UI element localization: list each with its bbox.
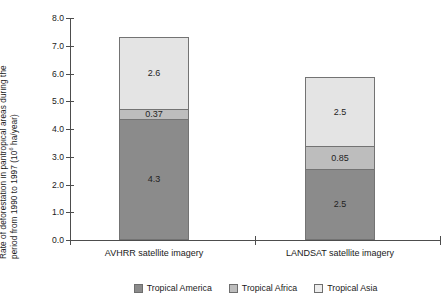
bar-landsat: 2.5 0.85 2.5 xyxy=(305,77,375,240)
y-tick-7 xyxy=(66,46,74,47)
legend-item-tropical-america: Tropical America xyxy=(134,284,212,293)
legend-item-tropical-africa: Tropical Africa xyxy=(229,284,297,293)
x-tick-middle xyxy=(255,236,256,245)
bar-landsat-label-tropical-america: 2.5 xyxy=(334,200,347,209)
y-tick-label-3: 3.0 xyxy=(38,153,64,162)
y-tick-label-4: 4.0 xyxy=(38,125,64,134)
y-axis-title: Rate of deforestation in pantropical are… xyxy=(0,0,36,248)
legend-swatch-icon-tropical-america xyxy=(134,284,143,293)
y-tick-1 xyxy=(66,212,74,213)
y-tick-label-2: 2.0 xyxy=(38,181,64,190)
legend-label-tropical-africa: Tropical Africa xyxy=(242,284,297,293)
bar-landsat-label-tropical-africa: 0.85 xyxy=(331,154,349,163)
y-tick-3 xyxy=(66,157,74,158)
bar-avhrr-segment-tropical-asia: 2.6 xyxy=(119,37,189,110)
bar-landsat-label-tropical-asia: 2.5 xyxy=(334,108,347,117)
x-axis-category-label-avhrr: AVHRR satellite imagery xyxy=(64,249,244,258)
bar-avhrr-label-tropical-africa: 0.37 xyxy=(145,110,163,119)
bar-landsat-segment-tropical-america: 2.5 xyxy=(305,169,375,240)
x-tick-left xyxy=(70,236,71,245)
legend-label-tropical-america: Tropical America xyxy=(147,284,212,293)
bar-landsat-segment-tropical-africa: 0.85 xyxy=(305,146,375,170)
bar-avhrr-label-tropical-america: 4.3 xyxy=(148,175,161,184)
bar-landsat-segment-tropical-asia: 2.5 xyxy=(305,77,375,147)
y-tick-label-7: 7.0 xyxy=(38,42,64,51)
y-axis-title-line-2-post: ha/year) xyxy=(10,114,19,147)
y-tick-8 xyxy=(66,18,74,19)
y-axis-title-exponent: 6 xyxy=(8,147,14,150)
y-tick-4 xyxy=(66,129,74,130)
y-tick-label-8: 8.0 xyxy=(38,14,64,23)
y-tick-label-0: 0.0 xyxy=(38,236,64,245)
legend: Tropical America Tropical Africa Tropica… xyxy=(70,279,441,297)
y-tick-label-1: 1.0 xyxy=(38,208,64,217)
y-tick-label-5: 5.0 xyxy=(38,97,64,106)
y-axis-title-line-2-pre: period from 1990 to 1997 (10 xyxy=(10,151,19,259)
bar-avhrr: 2.6 0.37 4.3 xyxy=(119,37,189,240)
legend-item-tropical-asia: Tropical Asia xyxy=(314,284,377,293)
x-tick-right xyxy=(440,236,441,245)
y-axis-title-line-2: period from 1990 to 1997 (106 ha/year) xyxy=(11,11,22,259)
x-axis-category-label-landsat: LANDSAT satellite imagery xyxy=(250,249,430,258)
chart-container: Rate of deforestation in pantropical are… xyxy=(0,0,448,302)
bar-avhrr-segment-tropical-america: 4.3 xyxy=(119,119,189,240)
legend-swatch-icon-tropical-asia xyxy=(314,284,323,293)
legend-swatch-icon-tropical-africa xyxy=(229,284,238,293)
legend-label-tropical-asia: Tropical Asia xyxy=(327,284,377,293)
y-tick-5 xyxy=(66,101,74,102)
y-tick-6 xyxy=(66,74,74,75)
y-tick-2 xyxy=(66,185,74,186)
y-tick-label-6: 6.0 xyxy=(38,70,64,79)
bar-avhrr-label-tropical-asia: 2.6 xyxy=(148,69,161,78)
